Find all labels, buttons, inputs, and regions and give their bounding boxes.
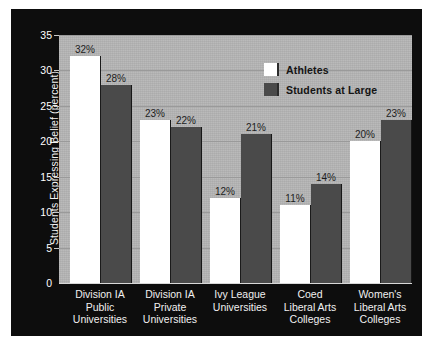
bar-students-division-ia-public[interactable]: 28% bbox=[101, 85, 132, 283]
chart-panel: Students Expressing Belief (percent) 35 … bbox=[11, 9, 422, 336]
y-axis-tick-group: 35 30 25 20 15 10 5 0 bbox=[11, 9, 52, 336]
legend-swatch-icon bbox=[264, 83, 279, 96]
bar-value-label: 11% bbox=[285, 193, 304, 204]
bar-students-division-ia-private[interactable]: 22% bbox=[171, 127, 202, 283]
bar-value-label: 14% bbox=[316, 172, 336, 183]
y-axis-tick-label: 25 bbox=[12, 101, 52, 112]
bar-chart-figure: Students Expressing Belief (percent) 35 … bbox=[0, 0, 434, 348]
x-axis-label-group: Division IA Public Universities Division… bbox=[59, 288, 412, 336]
bar-value-label: 32% bbox=[75, 44, 95, 55]
legend-item-label: Students at Large bbox=[286, 84, 377, 96]
y-axis-tick-label: 30 bbox=[12, 65, 52, 76]
bar-value-label: 12% bbox=[215, 186, 235, 197]
x-axis-label-line: Liberal Arts bbox=[330, 301, 422, 314]
bar-value-label: 23% bbox=[386, 108, 406, 119]
x-axis-label-line: Colleges bbox=[330, 313, 422, 326]
gridline bbox=[59, 35, 412, 36]
bar-students-womens-liberal-arts[interactable]: 23% bbox=[381, 120, 412, 283]
y-axis-tick-label: 0 bbox=[12, 278, 52, 289]
bar-athletes-womens-liberal-arts[interactable]: 20% bbox=[350, 141, 381, 283]
y-axis-tick-label: 15 bbox=[12, 172, 52, 183]
bar-value-label: 20% bbox=[355, 129, 375, 140]
plot-area: 32% 28% 23% 22% 12% 21% 11% bbox=[59, 35, 412, 283]
x-axis-label-womens-liberal-arts: Women's Liberal Arts Colleges bbox=[330, 288, 422, 326]
x-axis-label-line: Universities bbox=[120, 313, 220, 326]
y-axis-tick-label: 5 bbox=[12, 243, 52, 254]
x-axis-line bbox=[59, 283, 412, 284]
y-axis-tick-label: 35 bbox=[12, 30, 52, 41]
bar-value-label: 23% bbox=[145, 108, 165, 119]
legend-item-students-at-large[interactable]: Students at Large bbox=[264, 83, 377, 96]
bar-value-label: 28% bbox=[106, 73, 126, 84]
legend-item-athletes[interactable]: Athletes bbox=[264, 63, 377, 76]
legend-item-label: Athletes bbox=[286, 64, 329, 76]
y-axis-tick-label: 20 bbox=[12, 136, 52, 147]
bar-athletes-ivy-league[interactable]: 12% bbox=[210, 198, 241, 283]
bar-athletes-coed-liberal-arts[interactable]: 11% bbox=[280, 205, 311, 283]
y-axis-tick-label: 10 bbox=[12, 207, 52, 218]
legend-swatch-icon bbox=[264, 63, 279, 76]
bar-students-ivy-league[interactable]: 21% bbox=[241, 134, 272, 283]
bar-students-coed-liberal-arts[interactable]: 14% bbox=[311, 184, 342, 283]
bar-value-label: 22% bbox=[176, 115, 196, 126]
bar-value-label: 21% bbox=[246, 122, 266, 133]
legend: Athletes Students at Large bbox=[264, 63, 377, 103]
x-axis-label-line: Women's bbox=[330, 288, 422, 301]
bar-athletes-division-ia-private[interactable]: 23% bbox=[140, 120, 171, 283]
bar-athletes-division-ia-public[interactable]: 32% bbox=[70, 56, 101, 283]
